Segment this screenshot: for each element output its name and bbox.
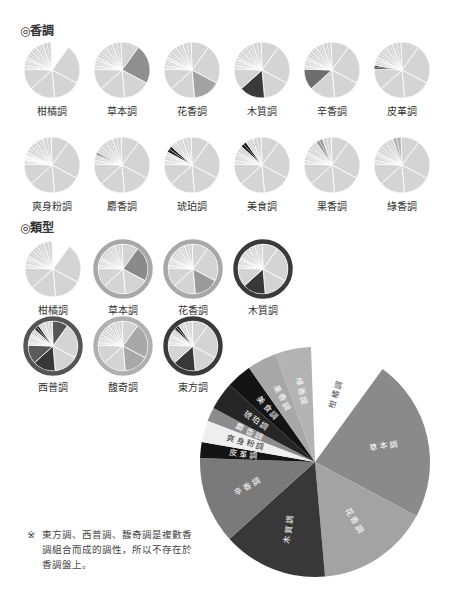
scent-note-label: 果香調 bbox=[302, 198, 362, 213]
scent-note-label: 柑橘調 bbox=[22, 103, 82, 118]
scent-note-pie bbox=[302, 40, 362, 100]
scent-note-label: 美食調 bbox=[232, 198, 292, 213]
section-title-types: ◎類型 bbox=[20, 218, 54, 235]
footnote: ※ 東方調、西普調、馥奇調是複數香調組合而成的調性，所以不存在於香調盤上。 bbox=[27, 527, 195, 572]
scent-note-pie bbox=[372, 40, 432, 100]
scent-note-label: 木質調 bbox=[232, 103, 292, 118]
scent-note-pie bbox=[92, 40, 152, 100]
type-pie bbox=[162, 238, 224, 300]
scent-note-pie bbox=[372, 135, 432, 195]
scent-wheel-chart: 柑橘調草本調花香調木質調辛香調皮革調爽身粉調麝香調琥珀調美食調果香調綠香調 bbox=[190, 335, 450, 605]
scent-note-pie bbox=[22, 40, 82, 100]
wheel-slice-label: 柑橘調 bbox=[326, 378, 344, 410]
type-pie bbox=[92, 315, 154, 377]
type-label: 馥奇調 bbox=[93, 379, 153, 394]
scent-note-pie bbox=[92, 135, 152, 195]
scent-note-label: 麝香調 bbox=[92, 198, 152, 213]
scent-note-pie bbox=[162, 40, 222, 100]
type-pie bbox=[92, 238, 154, 300]
scent-note-label: 琥珀調 bbox=[162, 198, 222, 213]
scent-note-pie bbox=[302, 135, 362, 195]
type-label: 西普調 bbox=[23, 379, 83, 394]
type-pie bbox=[22, 238, 84, 300]
scent-note-label: 爽身粉調 bbox=[22, 198, 82, 213]
note-text: 東方調、西普調、馥奇調是複數香調組合而成的調性，所以不存在於香調盤上。 bbox=[27, 527, 195, 572]
section-title-scent-notes: ◎香調 bbox=[20, 21, 54, 38]
scent-note-label: 花香調 bbox=[162, 103, 222, 118]
type-label: 木質調 bbox=[233, 302, 293, 317]
type-pie bbox=[232, 238, 294, 300]
scent-note-pie bbox=[22, 135, 82, 195]
scent-note-label: 草本調 bbox=[92, 103, 152, 118]
scent-note-pie bbox=[232, 40, 292, 100]
scent-note-label: 辛香調 bbox=[302, 103, 362, 118]
scent-note-label: 皮革調 bbox=[372, 103, 432, 118]
scent-note-label: 綠香調 bbox=[372, 198, 432, 213]
type-pie bbox=[22, 315, 84, 377]
note-mark: ※ bbox=[27, 527, 35, 542]
scent-note-pie bbox=[162, 135, 222, 195]
scent-note-pie bbox=[232, 135, 292, 195]
